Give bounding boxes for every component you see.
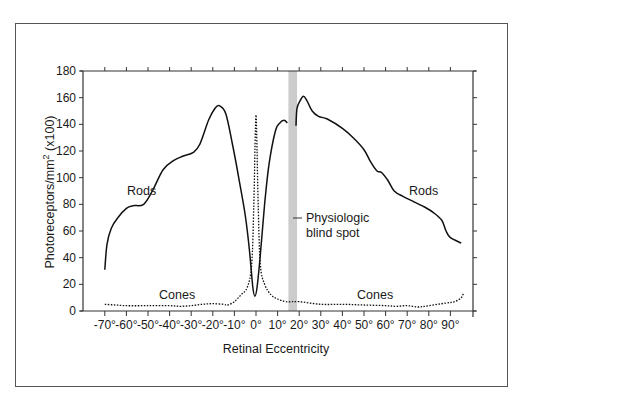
retinal-density-chart: 020406080100120140160180 -70°-60°-50°-40… (0, 0, 625, 402)
rods-curve (105, 105, 287, 296)
x-tick-label: 20° (290, 318, 308, 332)
x-tick-label: -30° (180, 318, 202, 332)
rods-label-left: Rods (127, 184, 156, 198)
x-tick-label: 50° (355, 318, 373, 332)
rods-label-right: Rods (409, 184, 438, 198)
y-tick-label: 0 (69, 304, 76, 318)
x-tick-label: 10° (269, 318, 287, 332)
y-tick-label: 140 (56, 117, 76, 131)
x-tick-label: -40° (159, 318, 181, 332)
blind-spot-band (288, 71, 297, 311)
x-tick-label: 90° (441, 318, 459, 332)
y-tick-label: 60 (63, 224, 77, 238)
x-tick-label: 0° (250, 318, 262, 332)
x-axis-ticks: -70°-60°-50°-40°-30°-20°-10°0°10°20°30°4… (94, 67, 460, 332)
y-tick-label: 180 (56, 64, 76, 78)
y-tick-label: 20 (63, 277, 77, 291)
y-tick-label: 100 (56, 171, 76, 185)
cones-label-left: Cones (159, 288, 195, 302)
x-tick-label: 60° (377, 318, 395, 332)
x-tick-label: 80° (420, 318, 438, 332)
x-tick-label: 30° (312, 318, 330, 332)
x-tick-label: 40° (333, 318, 351, 332)
x-axis-title: Retinal Eccentricity (223, 342, 330, 356)
blind-spot-rect (288, 71, 297, 311)
x-tick-label: -70° (94, 318, 116, 332)
data-series (105, 96, 464, 307)
x-tick-label: 70° (398, 318, 416, 332)
x-tick-label: -10° (223, 318, 245, 332)
cones-curve (105, 115, 464, 307)
y-tick-label: 120 (56, 144, 76, 158)
blind-spot-label-line1: Physiologic (306, 211, 369, 225)
y-tick-label: 160 (56, 91, 76, 105)
y-axis-title: Photoreceptors/mm2 (x100) (41, 116, 57, 269)
x-tick-label: -60° (115, 318, 137, 332)
cones-label-right: Cones (357, 288, 393, 302)
y-tick-label: 40 (63, 251, 77, 265)
x-tick-label: -50° (137, 318, 159, 332)
y-tick-label: 80 (63, 197, 77, 211)
x-tick-label: -20° (202, 318, 224, 332)
blind-spot-label-line2: blind spot (306, 226, 360, 240)
